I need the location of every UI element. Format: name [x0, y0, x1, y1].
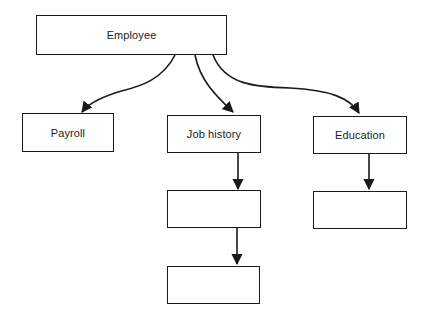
node-job-history: Job history [167, 115, 261, 153]
diagram-canvas: Employee Payroll Job history Education [0, 0, 425, 319]
node-payroll: Payroll [22, 113, 114, 152]
node-label-job-history: Job history [187, 128, 241, 140]
edge-employee-education [213, 55, 359, 113]
node-employee: Employee [36, 15, 227, 55]
node-job-history-child-2 [167, 266, 260, 304]
edge-employee-payroll [82, 55, 175, 112]
node-label-payroll: Payroll [51, 127, 85, 139]
node-label-education: Education [335, 129, 385, 141]
node-label-employee: Employee [107, 29, 157, 41]
node-education-child-1 [313, 191, 407, 229]
edge-employee-job-history [195, 55, 233, 112]
node-education: Education [313, 116, 407, 154]
node-job-history-child-1 [167, 190, 261, 228]
